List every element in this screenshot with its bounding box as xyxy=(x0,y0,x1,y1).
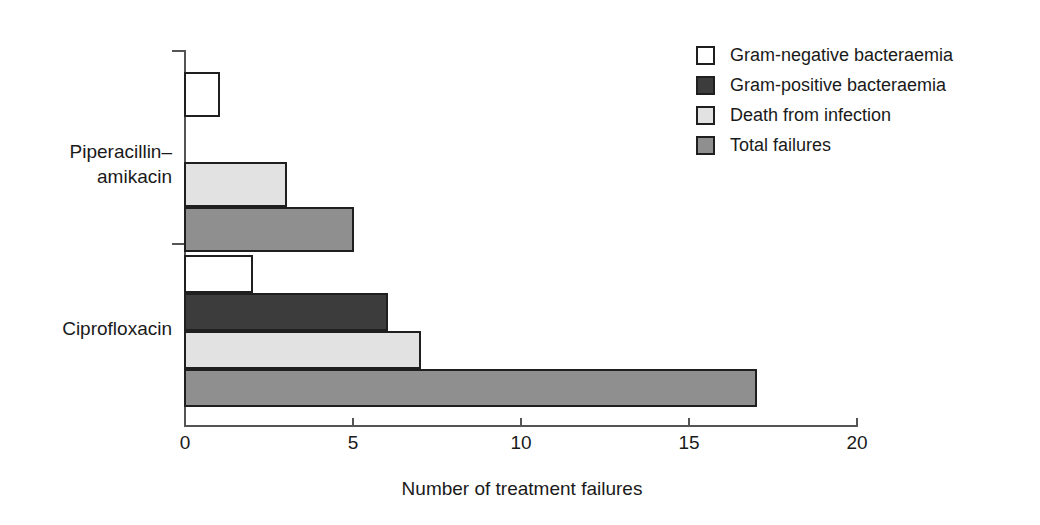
bar-chart: 05101520 Piperacillin– amikacin Ciproflo… xyxy=(0,0,1040,525)
x-axis-title: Number of treatment failures xyxy=(185,478,859,500)
legend-label-3: Total failures xyxy=(730,135,831,156)
legend-item-3[interactable]: Total failures xyxy=(696,130,953,160)
legend: Gram-negative bacteraemiaGram-positive b… xyxy=(696,40,953,160)
legend-item-0[interactable]: Gram-negative bacteraemia xyxy=(696,40,953,70)
legend-swatch-icon-dark xyxy=(696,76,715,95)
bar-1-0[interactable] xyxy=(184,255,253,293)
legend-swatch-icon-light xyxy=(696,106,715,125)
legend-label-1: Gram-positive bacteraemia xyxy=(730,75,946,96)
x-tick-15 xyxy=(688,418,690,427)
legend-item-2[interactable]: Death from infection xyxy=(696,100,953,130)
bar-0-0[interactable] xyxy=(184,72,220,117)
x-tick-20 xyxy=(856,418,858,427)
bar-1-1[interactable] xyxy=(184,293,388,331)
x-tick-0 xyxy=(184,418,186,427)
legend-swatch-icon-white xyxy=(696,46,715,65)
x-tick-label-15: 15 xyxy=(678,432,699,454)
bar-0-3[interactable] xyxy=(184,207,354,252)
legend-swatch-icon-medium xyxy=(696,136,715,155)
x-tick-label-5: 5 xyxy=(348,432,359,454)
bar-1-2[interactable] xyxy=(184,331,421,369)
bar-0-2[interactable] xyxy=(184,162,287,207)
category-label-ciprofloxacin: Ciprofloxacin xyxy=(62,316,172,341)
legend-item-1[interactable]: Gram-positive bacteraemia xyxy=(696,70,953,100)
bar-1-3[interactable] xyxy=(184,369,757,407)
x-tick-label-10: 10 xyxy=(510,432,531,454)
x-tick-label-0: 0 xyxy=(180,432,191,454)
category-label-piperacillin-amikacin: Piperacillin– amikacin xyxy=(70,139,172,189)
x-tick-5 xyxy=(352,418,354,427)
x-tick-label-20: 20 xyxy=(846,432,867,454)
y-tick-top xyxy=(172,50,185,52)
x-tick-10 xyxy=(520,418,522,427)
legend-label-2: Death from infection xyxy=(730,105,891,126)
legend-label-0: Gram-negative bacteraemia xyxy=(730,45,953,66)
